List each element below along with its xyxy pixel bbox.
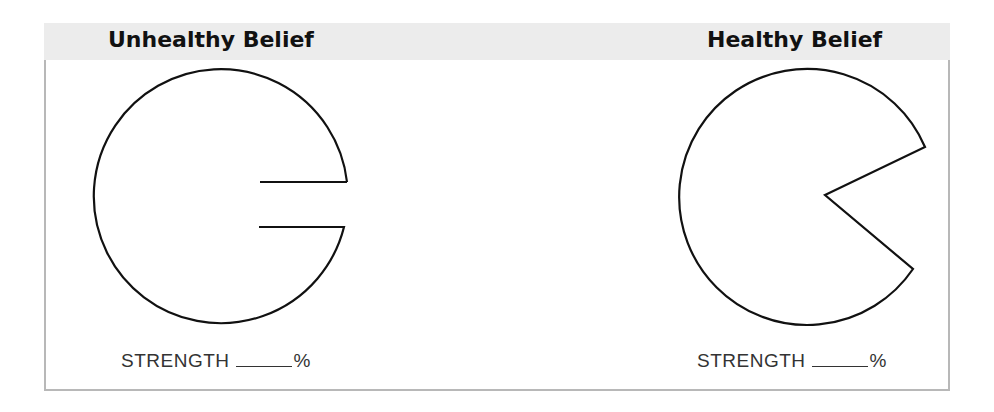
healthy-belief-pie: [679, 69, 925, 325]
healthy-strength-blank[interactable]: [812, 348, 868, 367]
percent-sign: %: [870, 350, 887, 371]
percent-sign: %: [294, 350, 311, 371]
unhealthy-belief-pie: [94, 69, 347, 323]
strength-label: STRENGTH: [697, 350, 806, 371]
healthy-strength-field: STRENGTH%: [697, 348, 887, 372]
unhealthy-strength-blank[interactable]: [236, 348, 292, 367]
strength-label: STRENGTH: [121, 350, 230, 371]
unhealthy-strength-field: STRENGTH%: [121, 348, 311, 372]
